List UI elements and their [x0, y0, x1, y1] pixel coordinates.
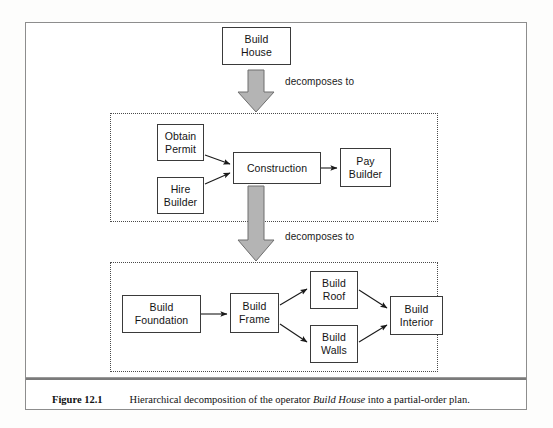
caption-prefix: Hierarchical decomposition of the operat… [130, 394, 313, 405]
node-build-walls-line2: Walls [321, 344, 347, 357]
node-build-house-line2: House [241, 46, 272, 59]
node-hire-builder-line2: Builder [164, 196, 197, 209]
node-build-frame-line2: Frame [239, 313, 270, 326]
node-build-interior-line1: Build [405, 303, 429, 316]
node-build-foundation-line1: Build [150, 301, 174, 314]
caption-number: Figure 12.1 [52, 394, 103, 405]
node-construction[interactable]: Construction [233, 152, 321, 184]
node-build-walls[interactable]: Build Walls [310, 325, 358, 363]
node-build-frame-line1: Build [243, 300, 267, 313]
node-construction-line1: Construction [247, 162, 307, 175]
decomposes-to-label-2: decomposes to [285, 231, 354, 242]
node-build-roof[interactable]: Build Roof [310, 271, 358, 309]
node-build-roof-line2: Roof [323, 290, 346, 303]
node-build-walls-line1: Build [322, 331, 346, 344]
node-hire-builder[interactable]: Hire Builder [157, 177, 204, 214]
node-obtain-permit-line2: Permit [165, 143, 196, 156]
caption-suffix: into a partial-order plan. [365, 394, 470, 405]
node-pay-builder-line1: Pay [356, 155, 374, 168]
node-obtain-permit-line1: Obtain [165, 130, 197, 143]
node-obtain-permit[interactable]: Obtain Permit [157, 124, 204, 161]
node-build-interior[interactable]: Build Interior [390, 296, 443, 335]
caption-divider [26, 377, 526, 380]
figure-caption: Figure 12.1 Hierarchical decomposition o… [26, 388, 526, 410]
node-build-interior-line2: Interior [400, 316, 433, 329]
node-hire-builder-line1: Hire [171, 183, 191, 196]
decomposes-to-label-1: decomposes to [285, 76, 354, 87]
node-build-frame[interactable]: Build Frame [230, 293, 279, 333]
node-build-foundation[interactable]: Build Foundation [122, 295, 201, 333]
node-pay-builder[interactable]: Pay Builder [340, 148, 391, 187]
caption-emphasis: Build House [313, 394, 365, 405]
node-build-foundation-line2: Foundation [135, 314, 189, 327]
caption-text: Hierarchical decomposition of the operat… [130, 394, 470, 405]
node-build-house[interactable]: Build House [222, 27, 291, 65]
node-build-roof-line1: Build [322, 277, 346, 290]
node-build-house-line1: Build [245, 33, 269, 46]
node-pay-builder-line2: Builder [349, 168, 382, 181]
